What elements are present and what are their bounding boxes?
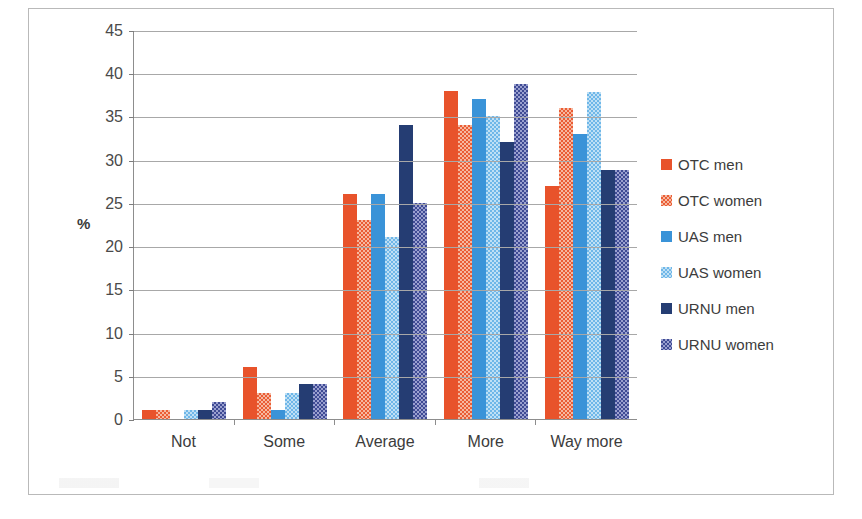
bars-layer bbox=[134, 31, 637, 419]
bar-urnu-men-not bbox=[198, 410, 212, 419]
gridline bbox=[134, 334, 637, 335]
bar-uas-women-more bbox=[486, 116, 500, 419]
y-tick-mark bbox=[129, 420, 134, 421]
chart-plot-wrapper: % 454035302520151050 NotSomeAverageMoreW… bbox=[29, 9, 833, 494]
bar-otc-women-way-more bbox=[559, 108, 573, 419]
bar-urnu-women-average bbox=[413, 203, 427, 419]
bar-otc-women-more bbox=[458, 125, 472, 419]
x-axis-label-way-more: Way more bbox=[536, 433, 637, 451]
y-tick-mark bbox=[129, 161, 134, 162]
bar-urnu-women-some bbox=[313, 384, 327, 419]
legend-item-urnu-men[interactable]: URNU men bbox=[661, 290, 826, 326]
gridline bbox=[134, 117, 637, 118]
bar-group-more bbox=[436, 31, 537, 419]
legend-item-uas-women[interactable]: UAS women bbox=[661, 254, 826, 290]
legend-item-uas-men[interactable]: UAS men bbox=[661, 218, 826, 254]
y-tick-label: 30 bbox=[105, 152, 123, 170]
y-tick-label: 10 bbox=[105, 325, 123, 343]
y-tick-mark bbox=[129, 247, 134, 248]
bar-urnu-women-more bbox=[514, 84, 528, 419]
y-tick-label: 40 bbox=[105, 65, 123, 83]
bar-urnu-men-average bbox=[399, 125, 413, 419]
legend-label: OTC men bbox=[678, 156, 743, 173]
bar-uas-men-average bbox=[371, 194, 385, 419]
legend-label: UAS men bbox=[678, 228, 742, 245]
gridline bbox=[134, 290, 637, 291]
bar-group-some bbox=[235, 31, 336, 419]
legend-swatch-icon bbox=[661, 195, 672, 206]
legend-swatch-icon bbox=[661, 339, 672, 350]
bar-otc-men-average bbox=[343, 194, 357, 419]
bar-urnu-women-not bbox=[212, 402, 226, 419]
bar-otc-men-way-more bbox=[545, 186, 559, 419]
legend-swatch-icon bbox=[661, 159, 672, 170]
bar-otc-women-some bbox=[257, 393, 271, 419]
legend-swatch-icon bbox=[661, 303, 672, 314]
y-tick-mark bbox=[129, 377, 134, 378]
gridline bbox=[134, 377, 637, 378]
y-tick-label: 35 bbox=[105, 108, 123, 126]
bar-urnu-women-way-more bbox=[615, 170, 629, 419]
y-tick-mark bbox=[129, 290, 134, 291]
bar-otc-men-not bbox=[142, 410, 156, 419]
y-tick-mark bbox=[129, 74, 134, 75]
x-axis-label-not: Not bbox=[133, 433, 234, 451]
legend-swatch-icon bbox=[661, 267, 672, 278]
legend-item-otc-women[interactable]: OTC women bbox=[661, 182, 826, 218]
bar-uas-women-way-more bbox=[587, 92, 601, 419]
bar-otc-men-more bbox=[444, 91, 458, 419]
bar-uas-women-some bbox=[285, 393, 299, 419]
x-tick-mark bbox=[435, 419, 436, 425]
gridline bbox=[134, 204, 637, 205]
gridline bbox=[134, 31, 637, 32]
chart-legend: OTC menOTC womenUAS menUAS womenURNU men… bbox=[661, 146, 826, 362]
plot-area bbox=[133, 31, 637, 420]
x-tick-mark bbox=[334, 419, 335, 425]
chart-frame: % 454035302520151050 NotSomeAverageMoreW… bbox=[28, 8, 834, 495]
y-tick-mark bbox=[129, 31, 134, 32]
legend-label: OTC women bbox=[678, 192, 762, 209]
bar-group-way-more bbox=[536, 31, 637, 419]
bar-otc-women-not bbox=[156, 410, 170, 419]
bar-otc-men-some bbox=[243, 367, 257, 419]
bar-uas-women-not bbox=[184, 410, 198, 419]
y-tick-label: 20 bbox=[105, 238, 123, 256]
y-tick-mark bbox=[129, 204, 134, 205]
y-tick-label: 5 bbox=[114, 368, 123, 386]
bar-group-not bbox=[134, 31, 235, 419]
legend-item-urnu-women[interactable]: URNU women bbox=[661, 326, 826, 362]
x-tick-mark bbox=[535, 419, 536, 425]
bar-uas-men-some bbox=[271, 410, 285, 419]
bar-uas-women-average bbox=[385, 237, 399, 419]
x-axis-label-some: Some bbox=[234, 433, 335, 451]
legend-label: URNU men bbox=[678, 300, 755, 317]
bar-otc-women-average bbox=[357, 220, 371, 419]
x-tick-mark bbox=[234, 419, 235, 425]
bar-uas-men-more bbox=[472, 99, 486, 419]
x-axis-label-average: Average bbox=[335, 433, 436, 451]
y-tick-label: 15 bbox=[105, 281, 123, 299]
bar-urnu-men-some bbox=[299, 384, 313, 419]
y-tick-mark bbox=[129, 334, 134, 335]
bar-group-average bbox=[335, 31, 436, 419]
scan-artifact bbox=[59, 478, 859, 488]
legend-label: URNU women bbox=[678, 336, 774, 353]
y-tick-label: 45 bbox=[105, 22, 123, 40]
bar-urnu-men-way-more bbox=[601, 170, 615, 419]
x-axis-label-more: More bbox=[435, 433, 536, 451]
legend-label: UAS women bbox=[678, 264, 761, 281]
gridline bbox=[134, 161, 637, 162]
legend-swatch-icon bbox=[661, 231, 672, 242]
legend-item-otc-men[interactable]: OTC men bbox=[661, 146, 826, 182]
y-axis-tick-labels: 454035302520151050 bbox=[79, 31, 123, 420]
y-tick-label: 25 bbox=[105, 195, 123, 213]
gridline bbox=[134, 74, 637, 75]
gridline bbox=[134, 247, 637, 248]
x-axis-tick-labels: NotSomeAverageMoreWay more bbox=[133, 433, 637, 451]
y-tick-label: 0 bbox=[114, 411, 123, 429]
y-tick-mark bbox=[129, 117, 134, 118]
